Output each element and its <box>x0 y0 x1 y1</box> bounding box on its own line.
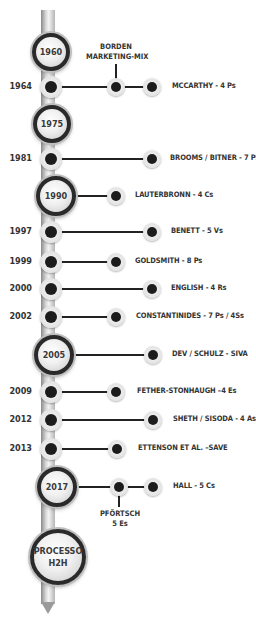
final-node-processo-h2h: PROCESSO H2H <box>30 529 86 585</box>
year-label: 1964 <box>0 81 32 91</box>
event-label-mccarthy: MCCARTHY - 4 Ps <box>172 81 236 90</box>
event-label-constantinides: CONSTANTINIDES - 7 Ps / 4Ss <box>136 311 244 320</box>
year-label: 2000 <box>0 283 32 293</box>
year-label: 2013 <box>0 443 32 453</box>
year-node-1964 <box>40 76 62 98</box>
event-label-fether-stonhaugh: FETHER-STONHAUGH –4 Es <box>137 386 236 395</box>
milestone-year: 2005 <box>43 350 66 361</box>
milestone-year: 1960 <box>40 47 63 58</box>
end-dot-2017 <box>144 478 162 496</box>
connector-1981 <box>51 158 151 160</box>
event-label-hall: HALL - 5 Cs <box>173 481 215 490</box>
end-dot-2013 <box>108 440 126 458</box>
milestone-year: 1990 <box>45 191 68 202</box>
year-node-1997 <box>40 221 62 243</box>
connector-2000 <box>51 288 151 290</box>
end-dot-1999 <box>107 253 125 271</box>
year-label: 1997 <box>0 226 32 236</box>
final-node-line1: PROCESSO <box>34 545 83 557</box>
borden-line1: BORDEN <box>86 42 146 52</box>
milestone-1975: 1975 <box>33 105 71 143</box>
milestone-2017: 2017 <box>37 467 77 507</box>
milestone-year: 2017 <box>46 482 69 493</box>
year-node-2000 <box>40 278 62 300</box>
timeline-arrow-tip <box>41 602 55 614</box>
event-label-dev-schulz: DEV / SCHULZ - SIVA <box>172 349 248 358</box>
event-label-english: ENGLISH - 4 Rs <box>171 283 226 292</box>
milestone-1960: 1960 <box>32 33 70 71</box>
end-dot-2009 <box>107 383 125 401</box>
milestone-2005: 2005 <box>34 335 74 375</box>
year-node-1999 <box>40 251 62 273</box>
end-dot-1997 <box>143 223 161 241</box>
event-label-sheth-sisoda: SHETH / SISODA - 4 As <box>173 414 256 423</box>
connector-2012 <box>51 419 151 421</box>
year-node-1981 <box>40 148 62 170</box>
end-dot-2005 <box>144 346 162 364</box>
end-dot-2012 <box>144 411 162 429</box>
year-node-2009 <box>40 381 62 403</box>
borden-line2: MARKETING-MIX <box>86 52 146 62</box>
year-node-2012 <box>40 409 62 431</box>
final-node-line2: H2H <box>34 557 83 569</box>
end-dot-2002 <box>107 308 125 326</box>
year-label: 2009 <box>0 386 32 396</box>
marketing-timeline: 1960 1975 1990 2005 2017 PROCESSO H2H 19… <box>0 0 256 626</box>
pfortsch-line1: PFÖRTSCH <box>90 509 150 519</box>
event-label-lauterbronn: LAUTERBRONN - 4 Cs <box>135 190 213 199</box>
end-dot-1964 <box>143 78 161 96</box>
end-dot-1981 <box>143 150 161 168</box>
branch-label-pfortsch: PFÖRTSCH 5 Es <box>90 509 150 529</box>
year-label: 1981 <box>0 153 32 163</box>
year-label: 2012 <box>0 414 32 424</box>
milestone-1990: 1990 <box>36 176 76 216</box>
year-label: 1999 <box>0 256 32 266</box>
end-dot-1990 <box>107 187 125 205</box>
event-label-benett: BENETT - 5 Vs <box>171 226 223 235</box>
connector-1997 <box>51 231 151 233</box>
pfortsch-line2: 5 Es <box>90 519 150 529</box>
end-dot-2000 <box>143 280 161 298</box>
year-label: 2002 <box>0 311 32 321</box>
milestone-year: 1975 <box>41 119 64 130</box>
connector-1964 <box>51 86 151 88</box>
event-label-brooms-bitner: BROOMS / BITNER - 7 Ps <box>170 153 256 162</box>
event-label-ettenson: ETTENSON ET AL. –SAVE <box>138 443 228 452</box>
branch-dot-borden <box>107 78 125 96</box>
year-node-2002 <box>40 306 62 328</box>
event-label-goldsmith: GOLDSMITH - 8 Ps <box>135 256 202 265</box>
branch-dot-pfortsch <box>110 478 128 496</box>
branch-label-borden: BORDEN MARKETING-MIX <box>86 42 146 62</box>
year-node-2013 <box>40 438 62 460</box>
